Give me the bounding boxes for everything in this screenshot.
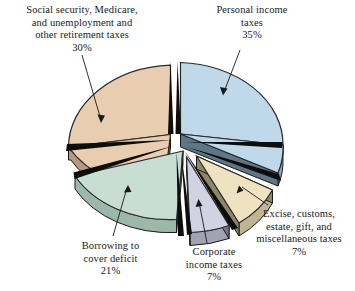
pie-chart-figure: Social security, Medicare, and unemploym… bbox=[0, 0, 355, 291]
slice-label-borrowing: Borrowing to cover deficit 21% bbox=[58, 240, 163, 278]
slice-label-excise: Excise, customs, estate, gift, and misce… bbox=[244, 208, 354, 258]
slice-label-personal-income: Personal income taxes 35% bbox=[192, 4, 312, 42]
slice-label-social-security: Social security, Medicare, and unemploym… bbox=[2, 4, 162, 54]
